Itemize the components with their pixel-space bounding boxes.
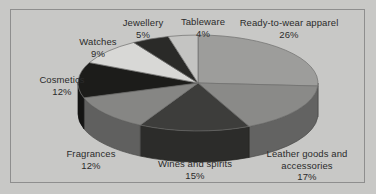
slice-label-percent: 26% [224, 29, 354, 41]
slice-label-name: Leather goods and accessories [248, 148, 366, 171]
slice-label-name: Wines and spirits [158, 158, 232, 169]
slice-label-fragrances: Fragrances 12% [48, 148, 134, 171]
slice-label-percent: 12% [22, 86, 102, 98]
slice-label-wines-and-spirits: Wines and spirits 15% [139, 158, 251, 181]
slice-label-percent: 17% [248, 171, 366, 183]
slice-label-name: Cosmetics [39, 74, 84, 85]
slice-label-name: Tableware [181, 16, 225, 27]
slice-label-percent: 12% [48, 160, 134, 172]
slice-label-percent: 5% [110, 29, 176, 41]
slice-label-tableware: Tableware 4% [168, 16, 238, 39]
slice-label-percent: 4% [168, 28, 238, 40]
slice-label-percent: 9% [67, 48, 129, 60]
slice-label-leather-goods-and-accessories: Leather goods and accessories 17% [248, 148, 366, 183]
slice-label-percent: 15% [139, 170, 251, 182]
slice-label-name: Ready-to-wear apparel [240, 17, 339, 28]
slice-label-jewellery: Jewellery 5% [110, 17, 176, 40]
pie-slice-ready-to-wear-apparel[interactable] [198, 35, 318, 86]
slice-label-name: Jewellery [123, 17, 164, 28]
slice-label-cosmetics: Cosmetics 12% [22, 74, 102, 97]
slice-label-ready-to-wear-apparel: Ready-to-wear apparel 26% [224, 17, 354, 40]
slice-label-name: Fragrances [66, 148, 115, 159]
